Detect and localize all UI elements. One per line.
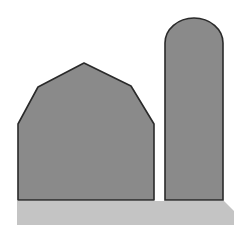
ground-shape	[17, 201, 234, 225]
barn-shape	[18, 63, 154, 200]
barn-silo-illustration	[0, 0, 234, 225]
silo-shape	[165, 18, 223, 200]
